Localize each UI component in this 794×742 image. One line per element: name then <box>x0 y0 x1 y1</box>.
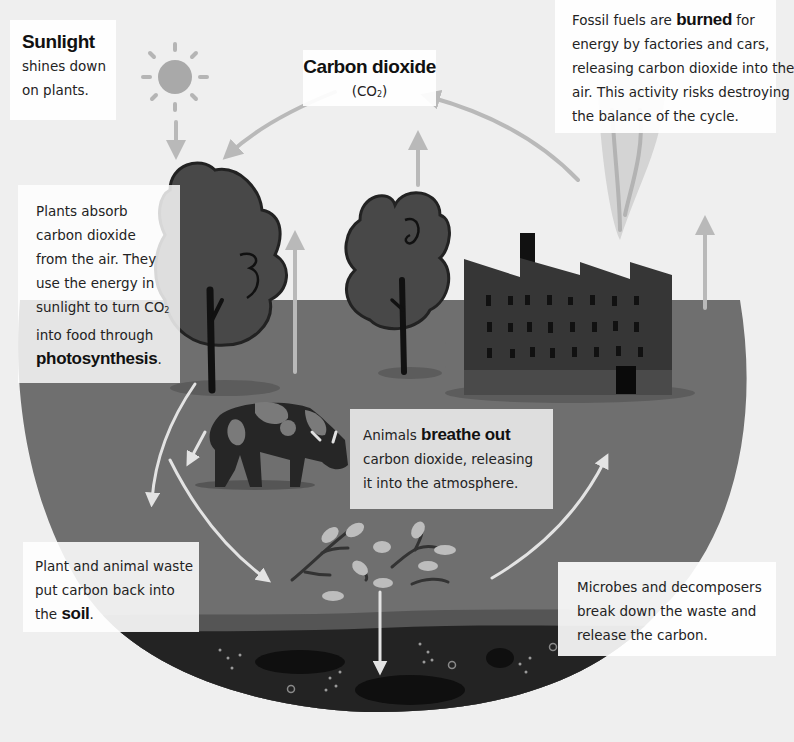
soil-label-box: Plant and animal waste put carbon back i… <box>23 542 199 632</box>
microbes-line-3: release the carbon. <box>577 623 776 647</box>
plants-line-2: carbon dioxide <box>36 223 180 247</box>
burned-emphasis: burned <box>676 10 732 29</box>
carbon-dioxide-label-box: Carbon dioxide (CO2) <box>303 50 436 106</box>
period: . <box>90 606 94 622</box>
breathe-out-emphasis: breathe out <box>421 425 510 444</box>
microbes-line-1: Microbes and decomposers <box>577 575 776 599</box>
plants-line-3: from the air. They <box>36 247 180 271</box>
photosynthesis-emphasis: photosynthesis <box>36 349 157 368</box>
soil-emphasis: soil <box>61 604 89 623</box>
formula-prefix: (CO <box>352 83 377 99</box>
co2-text: sunlight to turn CO <box>36 299 164 315</box>
fossil-fuels-line-5: the balance of the cycle. <box>572 104 776 128</box>
carbon-dioxide-title: Carbon dioxide <box>303 55 436 79</box>
factory <box>445 233 695 403</box>
plants-line-6: into food through <box>36 323 180 347</box>
fossil-text-pre: Fossil fuels are <box>572 12 676 28</box>
animals-line-1: Animals breathe out <box>363 423 553 447</box>
plants-line-5: sunlight to turn CO2 <box>36 295 180 323</box>
sunlight-label-box: Sunlight shines down on plants. <box>10 20 116 120</box>
period: . <box>157 351 161 367</box>
plants-line-1: Plants absorb <box>36 199 180 223</box>
decomposers-label-box: Microbes and decomposers break down the … <box>558 562 776 656</box>
waste-line-3: the soil. <box>35 602 199 626</box>
carbon-dioxide-formula: (CO2) <box>303 79 436 107</box>
photosynthesis-label-box: Plants absorb carbon dioxide from the ai… <box>18 185 180 383</box>
fossil-fuels-line-4: air. This activity risks destroying <box>572 80 776 104</box>
fossil-fuels-line-2: energy by factories and cars, <box>572 32 776 56</box>
animals-line-2: carbon dioxide, releasing <box>363 447 553 471</box>
respiration-label-box: Animals breathe out carbon dioxide, rele… <box>350 409 553 509</box>
fossil-fuels-line-3: releasing carbon dioxide into the <box>572 56 776 80</box>
waste-line-1: Plant and animal waste <box>35 554 199 578</box>
animals-text: Animals <box>363 427 421 443</box>
animals-line-3: it into the atmosphere. <box>363 471 553 495</box>
waste-line-2: put carbon back into <box>35 578 199 602</box>
co2-subscript: 2 <box>164 306 169 315</box>
plants-line-7: photosynthesis. <box>36 347 180 371</box>
microbes-line-2: break down the waste and <box>577 599 776 623</box>
formula-suffix: ) <box>382 83 387 99</box>
fossil-fuels-label-box: Fossil fuels are burned for energy by fa… <box>555 0 776 133</box>
waste-text: the <box>35 606 61 622</box>
fossil-fuels-line-1: Fossil fuels are burned for <box>572 8 776 32</box>
sunlight-line-2: on plants. <box>22 78 116 102</box>
plants-line-4: use the energy in <box>36 271 180 295</box>
sunlight-line-1: shines down <box>22 54 116 78</box>
sunlight-title: Sunlight <box>22 30 116 54</box>
sun-icon <box>143 44 207 110</box>
fossil-text-post: for <box>732 12 755 28</box>
